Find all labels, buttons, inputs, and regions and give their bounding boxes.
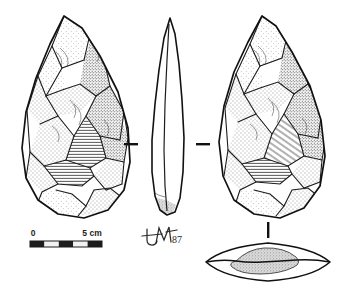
view-cross-section <box>200 240 336 284</box>
view-right-face <box>214 10 332 225</box>
scale-bar: 0 5 cm <box>30 228 102 247</box>
scale-end-label: 5 cm <box>82 228 102 238</box>
marker-right-dash <box>196 143 210 145</box>
artist-signature: 87 <box>142 227 182 245</box>
lithic-plate-svg: 0 5 cm 87 <box>0 0 341 290</box>
marker-left-dash <box>124 143 138 145</box>
view-profile <box>148 12 192 222</box>
scale-start-label: 0 <box>31 228 36 238</box>
marker-section-tie <box>267 222 269 238</box>
illustration-plate: 0 5 cm 87 <box>0 0 341 290</box>
view-left-face <box>18 10 138 225</box>
signature-year: 87 <box>172 234 182 245</box>
scale-bar-segments <box>30 241 102 247</box>
